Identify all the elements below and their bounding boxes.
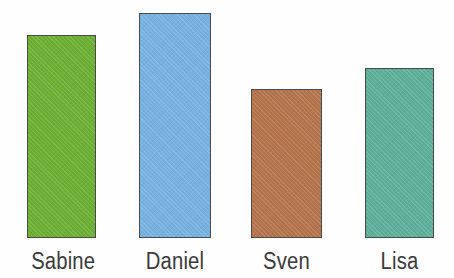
bar-texture — [366, 69, 433, 237]
bar-texture — [28, 36, 95, 237]
bar-label-sabine: Sabine — [31, 248, 92, 274]
bar-label-lisa: Lisa — [369, 248, 430, 274]
bar-chart: Sabine Daniel Sven Lisa — [0, 0, 454, 278]
bar-group-lisa[interactable]: Lisa — [365, 0, 434, 278]
bar-daniel[interactable] — [139, 13, 211, 238]
bar-texture — [140, 14, 210, 237]
bar-group-sven[interactable]: Sven — [251, 0, 322, 278]
bar-sabine[interactable] — [27, 35, 96, 238]
plot-area: Sabine Daniel Sven Lisa — [0, 0, 454, 278]
bar-group-daniel[interactable]: Daniel — [139, 0, 211, 278]
bar-lisa[interactable] — [365, 68, 434, 238]
bar-label-sven: Sven — [255, 248, 317, 274]
bar-label-daniel: Daniel — [143, 248, 206, 274]
bar-group-sabine[interactable]: Sabine — [27, 0, 96, 278]
bar-texture — [252, 90, 321, 237]
bar-sven[interactable] — [251, 89, 322, 238]
